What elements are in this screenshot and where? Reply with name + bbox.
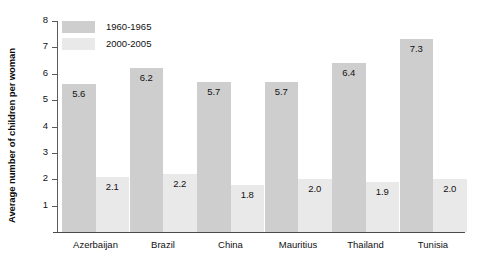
legend-swatch	[62, 21, 95, 33]
bar-value-label: 5.6	[62, 88, 96, 99]
bar: 5.7	[197, 82, 231, 232]
bar-value-label: 6.2	[130, 72, 164, 83]
plot-area: 12345678 5.62.16.22.25.71.85.72.06.41.97…	[57, 21, 466, 232]
y-axis-tick-label: 6	[43, 67, 48, 78]
y-axis-tick: 5	[52, 100, 57, 101]
bar: 2.2	[163, 174, 197, 232]
bar: 7.3	[400, 39, 434, 232]
bar-chart: Average number of children per woman 123…	[0, 0, 486, 271]
bar: 1.8	[231, 185, 265, 232]
bar: 1.9	[366, 182, 400, 232]
bar-value-label: 1.8	[231, 189, 265, 200]
bar: 6.4	[332, 63, 366, 232]
bar-value-label: 1.9	[366, 186, 400, 197]
legend-label: 2000-2005	[106, 38, 151, 49]
y-axis-tick: 8	[52, 21, 57, 22]
x-axis-category-label: Brazil	[130, 239, 197, 250]
bar-value-label: 2.0	[298, 183, 332, 194]
bar: 5.6	[62, 84, 96, 232]
x-axis-line	[53, 232, 465, 233]
y-axis-tick: 4	[52, 127, 57, 128]
bar: 5.7	[265, 82, 299, 232]
x-axis-category-label: Tunisia	[400, 239, 467, 250]
y-axis-tick-label: 2	[43, 172, 48, 183]
y-axis-tick-label: 3	[43, 146, 48, 157]
y-axis-tick: 7	[52, 47, 57, 48]
x-axis-category-label: Thailand	[332, 239, 399, 250]
bar-value-label: 5.7	[197, 86, 231, 97]
y-axis-title: Average number of children per woman	[0, 0, 22, 271]
y-axis-tick-label: 5	[43, 93, 48, 104]
legend: 1960-19652000-2005	[62, 18, 151, 52]
bar: 2.0	[433, 179, 467, 232]
bar-value-label: 2.0	[433, 183, 467, 194]
y-axis-tick: 2	[52, 179, 57, 180]
y-axis-tick-label: 7	[43, 40, 48, 51]
bar-value-label: 5.7	[265, 86, 299, 97]
y-axis-tick-label: 8	[43, 14, 48, 25]
y-axis-tick: 1	[52, 206, 57, 207]
bar-value-label: 2.1	[96, 181, 130, 192]
bar-value-label: 7.3	[400, 43, 434, 54]
bar: 2.1	[96, 177, 130, 232]
y-axis-tick: 6	[52, 74, 57, 75]
legend-label: 1960-1965	[106, 21, 151, 32]
bar: 6.2	[130, 68, 164, 232]
bar: 2.0	[298, 179, 332, 232]
x-axis-category-label: Azerbaijan	[62, 239, 129, 250]
y-axis-line	[57, 21, 58, 232]
x-axis-category-label: Mauritius	[265, 239, 332, 250]
bar-value-label: 2.2	[163, 178, 197, 189]
legend-item: 1960-1965	[62, 18, 151, 35]
x-axis-category-label: China	[197, 239, 264, 250]
y-axis-tick-label: 1	[43, 199, 48, 210]
y-axis-tick-label: 4	[43, 120, 48, 131]
legend-swatch	[62, 38, 95, 50]
bar-value-label: 6.4	[332, 67, 366, 78]
y-axis-tick: 3	[52, 153, 57, 154]
legend-item: 2000-2005	[62, 35, 151, 52]
